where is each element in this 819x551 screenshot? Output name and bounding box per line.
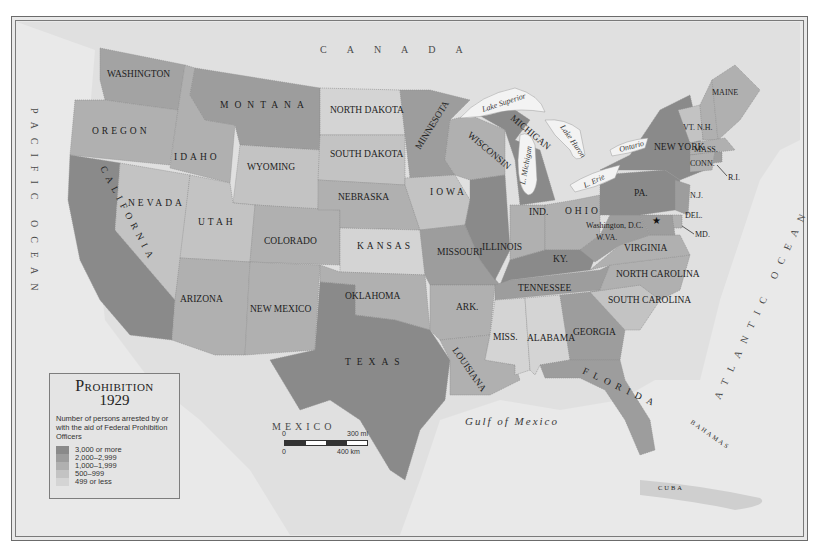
label-rhode-island: R.I. xyxy=(728,173,740,182)
label-illinois: ILLINOIS xyxy=(482,242,522,252)
label-tennessee: TENNESSEE xyxy=(518,283,572,293)
label-dc: Washington, D.C. xyxy=(586,221,643,230)
label-indiana: IND. xyxy=(529,207,548,217)
legend-swatch-2 xyxy=(56,462,69,470)
label-virginia: VIRGINIA xyxy=(624,243,667,253)
legend-swatch-0 xyxy=(56,446,69,454)
legend-swatch-3 xyxy=(56,470,69,478)
label-maine: MAINE xyxy=(712,88,738,97)
label-wyoming: WYOMING xyxy=(247,162,295,172)
state-arkansas[interactable] xyxy=(430,285,495,340)
state-colorado[interactable] xyxy=(250,205,340,265)
label-south-dakota: SOUTH DAKOTA xyxy=(330,149,404,159)
scale-mi-zero: 0 xyxy=(282,430,286,437)
label-massachusetts: MASS. xyxy=(694,145,718,154)
legend-swatch-1 xyxy=(56,454,69,462)
label-pacific-ocean: PACIFIC OCEAN xyxy=(29,108,40,299)
label-oregon: OREGON xyxy=(92,126,150,136)
label-vermont: VT. xyxy=(683,123,695,132)
legend-label-4: 499 or less xyxy=(75,478,122,486)
label-iowa: IOWA xyxy=(430,187,467,197)
label-south-carolina: SOUTH CAROLINA xyxy=(608,295,691,305)
legend-year: 1929 xyxy=(56,393,173,408)
label-new-mexico: NEW MEXICO xyxy=(250,304,311,314)
label-new-hampshire: N.H. xyxy=(697,123,713,132)
label-texas: TEXAS xyxy=(345,357,406,367)
state-wyoming[interactable] xyxy=(233,145,320,210)
scale-km-zero: 0 xyxy=(282,448,286,455)
state-arizona[interactable] xyxy=(172,258,250,355)
label-delaware: DEL. xyxy=(685,211,703,220)
label-alabama: ALABAMA xyxy=(527,333,575,343)
label-bahamas: BAHAMAS xyxy=(689,418,731,450)
label-utah: UTAH xyxy=(198,217,236,227)
scale-km-label: 400 km xyxy=(337,448,360,455)
label-georgia: GEORGIA xyxy=(573,327,616,337)
legend-swatch-4 xyxy=(56,478,69,486)
capital-star-icon: ★ xyxy=(652,215,661,226)
state-kansas[interactable] xyxy=(340,228,425,275)
label-pennsylvania: PA. xyxy=(634,188,648,198)
legend-scale: 3,000 or more 2,000–2,999 1,000–1,999 50… xyxy=(56,446,173,486)
state-south-dakota[interactable] xyxy=(318,135,405,185)
label-montana: MONTANA xyxy=(220,100,310,110)
label-connecticut: CONN. xyxy=(690,159,715,168)
label-new-jersey: N.J. xyxy=(690,191,703,200)
label-oklahoma: OKLAHOMA xyxy=(345,291,401,301)
label-kansas: KANSAS xyxy=(357,241,413,251)
label-arizona: ARIZONA xyxy=(180,294,223,304)
label-canada: CANADA xyxy=(320,44,483,55)
label-mississippi: MISS. xyxy=(493,332,518,342)
scale-bar-graphic xyxy=(284,440,368,446)
state-new-jersey[interactable] xyxy=(675,180,690,215)
label-maryland: MD. xyxy=(695,230,710,239)
label-nebraska: NEBRASKA xyxy=(338,192,389,202)
scale-bar: 0 300 mi 0 400 km xyxy=(282,430,382,460)
label-ohio: OHIO xyxy=(565,206,601,216)
label-missouri: MISSOURI xyxy=(437,247,482,257)
label-nevada: NEVADA xyxy=(128,198,185,208)
scale-mi-label: 300 mi xyxy=(347,430,368,437)
map-legend: Prohibition 1929 Number of persons arres… xyxy=(49,373,180,499)
legend-description: Number of persons arrested by or with th… xyxy=(56,414,173,441)
label-north-dakota: NORTH DAKOTA xyxy=(330,105,404,115)
label-washington: WASHINGTON xyxy=(107,69,170,79)
legend-title: Prohibition xyxy=(56,378,173,393)
label-idaho: IDAHO xyxy=(174,152,220,162)
label-north-carolina: NORTH CAROLINA xyxy=(616,269,700,279)
label-gulf-of-mexico: Gulf of Mexico xyxy=(465,415,559,427)
label-west-virginia: W.VA. xyxy=(596,233,617,242)
label-arkansas: ARK. xyxy=(456,302,478,312)
label-cuba: CUBA xyxy=(658,484,684,491)
label-colorado: COLORADO xyxy=(264,236,317,246)
label-kentucky: KY. xyxy=(553,254,568,264)
